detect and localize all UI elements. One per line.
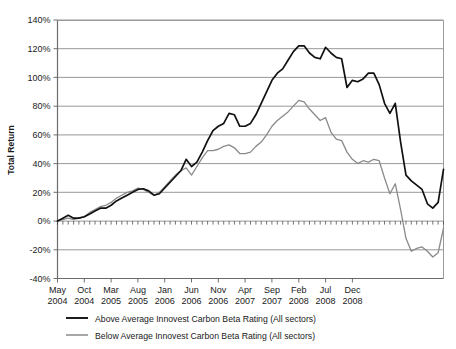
y-tick-label: -20%	[29, 245, 50, 255]
gridlines	[58, 20, 444, 250]
series-line-above-average	[58, 46, 444, 221]
total-return-line-chart: -40%-20%0%20%40%60%80%100%120%140% May20…	[0, 0, 456, 349]
chart-container: -40%-20%0%20%40%60%80%100%120%140% May20…	[0, 0, 456, 349]
x-tick-label-month: Jun	[184, 285, 199, 295]
y-tick-label: 80%	[32, 101, 50, 111]
x-tick-label-year: 2008	[316, 296, 336, 306]
x-tick-label-year: 2005	[101, 296, 121, 306]
x-tick-label-year: 2007	[262, 296, 282, 306]
x-tick-label-month: Aug	[130, 285, 146, 295]
x-tick-label-month: Jul	[320, 285, 332, 295]
legend-label-above-average: Above Average Innovest Carbon Beta Ratin…	[95, 314, 316, 324]
x-tick-label-year: 2004	[47, 296, 67, 306]
x-tick-label-year: 2007	[235, 296, 255, 306]
x-axis-labels: May2004Oct2004Mar2005Aug2005Jan2006Jun20…	[47, 279, 362, 306]
x-tick-label-month: Jan	[157, 285, 172, 295]
y-axis-ticks: -40%-20%0%20%40%60%80%100%120%140%	[27, 15, 57, 284]
x-tick-label-year: 2005	[128, 296, 148, 306]
monthly-tickmarks	[58, 221, 444, 225]
x-tick-label-year: 2008	[289, 296, 309, 306]
y-tick-label: 20%	[32, 188, 50, 198]
y-tick-label: 40%	[32, 159, 50, 169]
x-tick-label-year: 2004	[74, 296, 94, 306]
chart-legend: Above Average Innovest Carbon Beta Ratin…	[66, 314, 316, 341]
y-tick-label: 60%	[32, 130, 50, 140]
x-tick-label-year: 2006	[181, 296, 201, 306]
plot-frame	[58, 20, 444, 279]
x-tick-label-month: May	[49, 285, 67, 295]
y-tick-label: -40%	[29, 274, 50, 284]
x-tick-label-month: Dec	[344, 285, 361, 295]
x-tick-label-month: Nov	[210, 285, 227, 295]
x-tick-label-month: Mar	[103, 285, 119, 295]
y-axis-title: Total Return	[6, 125, 16, 174]
y-tick-label: 0%	[37, 216, 50, 226]
x-tick-label-month: Oct	[77, 285, 92, 295]
y-tick-label: 140%	[27, 15, 50, 25]
x-tick-label-month: Apr	[238, 285, 252, 295]
x-tick-label-year: 2006	[208, 296, 228, 306]
x-tick-label-year: 2006	[155, 296, 175, 306]
x-tick-label-month: Sep	[264, 285, 280, 295]
legend-label-below-average: Below Average Innovest Carbon Beta Ratin…	[95, 331, 315, 341]
y-tick-label: 120%	[27, 44, 50, 54]
x-tick-label-month: Feb	[291, 285, 307, 295]
y-tick-label: 100%	[27, 73, 50, 83]
x-tick-label-year: 2008	[342, 296, 362, 306]
